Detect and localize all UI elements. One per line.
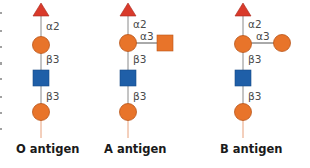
left-edge-artifact bbox=[0, 12, 2, 130]
galnac-square-icon bbox=[157, 35, 173, 51]
galactose-circle-icon bbox=[235, 104, 252, 121]
galactose-circle-icon bbox=[120, 35, 137, 52]
glcnac-square-icon bbox=[33, 70, 49, 86]
o-antigen: α2 β3 β3 O antigen bbox=[16, 3, 79, 156]
link-label-beta3: β3 bbox=[133, 90, 146, 102]
glcnac-square-icon bbox=[235, 70, 251, 86]
glcnac-square-icon bbox=[120, 70, 136, 86]
galactose-circle-icon bbox=[33, 104, 50, 121]
a-antigen: α2 α3 β3 β3 A antigen bbox=[104, 3, 173, 156]
fucose-triangle-icon bbox=[120, 3, 136, 16]
galactose-circle-icon bbox=[235, 36, 252, 53]
link-label-alpha2: α2 bbox=[46, 20, 60, 32]
b-antigen-label: B antigen bbox=[220, 142, 282, 156]
fucose-triangle-icon bbox=[33, 3, 49, 16]
link-label-beta3: β3 bbox=[133, 53, 146, 65]
b-antigen: α2 α3 β3 β3 B antigen bbox=[220, 3, 291, 156]
link-label-alpha3: α3 bbox=[140, 30, 154, 42]
link-label-alpha3: α3 bbox=[256, 30, 270, 42]
abo-antigen-diagram: α2 β3 β3 O antigen α2 α3 β3 β3 A antigen… bbox=[0, 0, 310, 168]
link-label-beta3: β3 bbox=[46, 90, 59, 102]
link-label-alpha2: α2 bbox=[248, 18, 262, 30]
link-label-beta3: β3 bbox=[248, 53, 261, 65]
galactose-circle-icon bbox=[33, 37, 50, 54]
o-antigen-label: O antigen bbox=[16, 142, 79, 156]
branch-galactose-circle-icon bbox=[274, 35, 291, 52]
galactose-circle-icon bbox=[120, 104, 137, 121]
link-label-beta3: β3 bbox=[46, 53, 59, 65]
a-antigen-label: A antigen bbox=[104, 142, 167, 156]
link-label-beta3: β3 bbox=[248, 90, 261, 102]
fucose-triangle-icon bbox=[235, 3, 251, 16]
link-label-alpha2: α2 bbox=[133, 18, 147, 30]
